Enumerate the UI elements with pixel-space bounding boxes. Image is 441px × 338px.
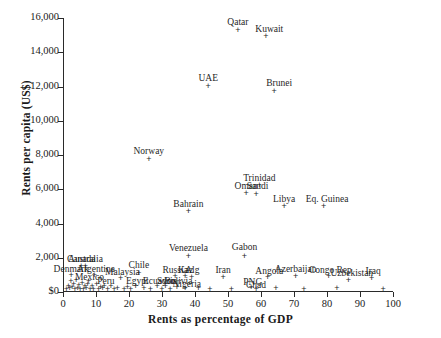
x-tick-mark xyxy=(228,292,229,297)
data-point xyxy=(104,286,111,293)
x-tick-7: 70 xyxy=(294,292,295,293)
x-tick-label: 90 xyxy=(355,298,366,309)
point-label: Kuwait xyxy=(255,24,283,34)
y-tick-label: 10,000 xyxy=(30,114,59,125)
x-tick-9: 90 xyxy=(360,292,361,293)
x-tick-mark xyxy=(129,292,130,297)
point-label: Chad xyxy=(246,280,266,290)
data-point xyxy=(89,283,96,290)
y-tick-8: 16,000 xyxy=(63,18,64,19)
point-label: Nigeria xyxy=(173,279,202,289)
data-point xyxy=(67,278,74,285)
x-tick-label: 20 xyxy=(124,298,135,309)
y-axis-title: Rents per capita (US$) xyxy=(20,38,32,238)
point-label: Bahrain xyxy=(173,199,203,209)
data-point xyxy=(241,253,248,260)
data-point xyxy=(271,88,278,95)
x-tick-mark xyxy=(96,292,97,297)
x-axis-title: Rents as percentage of GDP xyxy=(0,313,441,325)
x-tick-mark xyxy=(327,292,328,297)
data-point xyxy=(147,286,154,293)
x-tick-4: 40 xyxy=(195,292,196,293)
y-tick-5: 10,000 xyxy=(63,121,64,122)
point-label: Libya xyxy=(273,194,295,204)
data-point xyxy=(320,203,327,210)
x-tick-label: 70 xyxy=(289,298,300,309)
x-tick-mark xyxy=(360,292,361,297)
point-label: Saudi xyxy=(247,181,269,191)
scatter-chart-figure: Rents per capita (US$) $02,0004,0006,000… xyxy=(0,0,441,338)
point-label: Iraq xyxy=(366,266,381,276)
y-tick-7: 14,000 xyxy=(63,52,64,53)
point-label: Brunei xyxy=(266,78,292,88)
y-tick-3: 6,000 xyxy=(63,189,64,190)
y-tick-label: 16,000 xyxy=(30,11,59,22)
x-tick-mark xyxy=(393,292,394,297)
x-tick-0: 0 xyxy=(63,292,64,293)
x-tick-label: 50 xyxy=(223,298,234,309)
data-point xyxy=(87,286,94,293)
data-point xyxy=(185,253,192,260)
point-label: Alg xyxy=(185,265,199,275)
y-tick-label: 4,000 xyxy=(35,217,59,228)
y-tick-label: 14,000 xyxy=(30,45,59,56)
x-tick-mark xyxy=(261,292,262,297)
x-tick-label: 0 xyxy=(60,298,65,309)
point-label: Australia xyxy=(68,254,103,264)
point-label: Iran xyxy=(215,265,230,275)
x-tick-mark xyxy=(195,292,196,297)
data-point xyxy=(206,286,213,293)
point-label: Eq. Guinea xyxy=(306,194,349,204)
x-tick-mark xyxy=(294,292,295,297)
x-tick-3: 30 xyxy=(162,292,163,293)
data-point xyxy=(185,208,192,215)
data-point xyxy=(145,156,152,163)
y-tick-label: 8,000 xyxy=(35,148,59,159)
point-label: UAE xyxy=(198,73,218,83)
y-tick-6: 12,000 xyxy=(63,87,64,88)
plot-area: $02,0004,0006,0008,00010,00012,00014,000… xyxy=(63,18,393,292)
data-point xyxy=(253,191,260,198)
x-tick-label: 100 xyxy=(385,298,401,309)
data-point xyxy=(65,283,72,290)
data-point xyxy=(262,33,269,40)
x-tick-label: 10 xyxy=(91,298,102,309)
x-tick-label: 60 xyxy=(256,298,267,309)
x-tick-mark xyxy=(63,292,64,297)
y-tick-4: 8,000 xyxy=(63,155,64,156)
data-point xyxy=(234,27,241,34)
y-tick-label: 2,000 xyxy=(35,251,59,262)
point-label: Venezuela xyxy=(169,243,208,253)
x-tick-1: 10 xyxy=(96,292,97,293)
data-point xyxy=(75,282,82,289)
x-tick-label: 80 xyxy=(322,298,333,309)
data-point xyxy=(205,83,212,90)
data-point xyxy=(81,283,88,290)
x-tick-10: 100 xyxy=(393,292,394,293)
x-tick-8: 80 xyxy=(327,292,328,293)
x-tick-label: 30 xyxy=(157,298,168,309)
x-tick-5: 50 xyxy=(228,292,229,293)
point-label: Norway xyxy=(133,146,164,156)
x-tick-2: 20 xyxy=(129,292,130,293)
x-tick-6: 60 xyxy=(261,292,262,293)
point-label: Gabon xyxy=(232,242,257,252)
y-tick-label: $0 xyxy=(49,285,60,296)
y-tick-label: 6,000 xyxy=(35,182,59,193)
data-point xyxy=(77,286,84,293)
point-label: Peru xyxy=(97,276,114,286)
x-tick-label: 40 xyxy=(190,298,201,309)
point-label: Qatar xyxy=(227,17,248,27)
y-tick-label: 12,000 xyxy=(30,80,59,91)
x-tick-mark xyxy=(162,292,163,297)
y-tick-1: 2,000 xyxy=(63,258,64,259)
y-tick-2: 4,000 xyxy=(63,224,64,225)
